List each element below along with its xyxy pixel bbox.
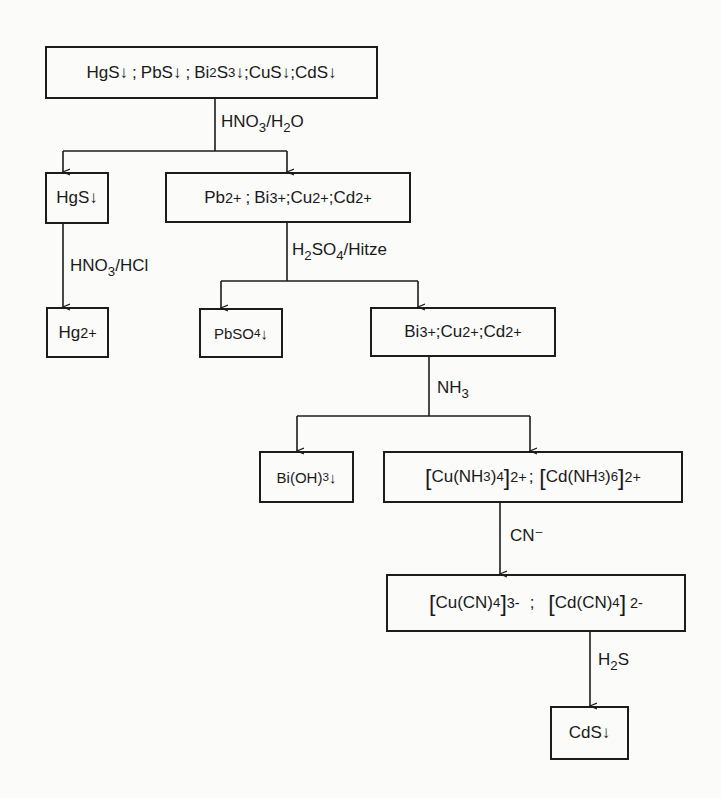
precipitate-arrow-icon: ↓ [120,63,129,83]
formula-text: Bi [404,322,419,342]
formula-text: S [217,63,228,83]
reagent-label-hno3-h2o: HNO3/H2O [221,112,304,132]
formula-text: /H [266,112,283,131]
formula-text: ) [605,467,611,487]
subscript: 3 [462,386,469,401]
formula-text: Cd [484,322,506,342]
precipitate-arrow-icon: ↓ [261,325,269,342]
formula-text: Cd [334,188,356,208]
precipitate-arrow-icon: ↓ [173,63,182,83]
precipitate-arrow-icon: ↓ [329,469,337,486]
precipitate-arrow-icon: ↓ [89,188,98,208]
node-cds-precipitate: CdS↓ [550,706,629,760]
formula-text: /HCl [115,256,148,275]
formula-text: Bi(OH) [277,469,323,486]
formula-text: O [291,112,304,131]
subscript: 2 [283,120,290,135]
formula-text: CN⁻ [510,526,544,545]
precipitate-arrow-icon: ↓ [602,723,611,743]
separator: ; [529,467,534,487]
connector-lines [0,0,721,798]
formula-text: Cu(NH [431,467,483,487]
reagent-label-cyanide: CN⁻ [510,525,544,546]
formula-text: Cd(NH [546,467,598,487]
formula-text: SO [312,240,337,259]
node-hg-ion: Hg2+ [46,307,109,358]
subscript: 4 [336,248,343,263]
node-hgs-precipitate: HgS↓ [45,172,109,224]
subscript: 2 [610,658,617,673]
formula-text: PbSO [214,325,254,342]
reagent-label-h2so4-hitze: H2SO4/Hitze [292,240,387,260]
formula-text: Bi [194,63,209,83]
formula-text: NH [437,378,462,397]
separator: ; [132,63,137,83]
formula-text: Pb [204,188,225,208]
node-cyano-complexes: [Cu(CN)4]3-; [Cd(CN)4]2- [386,574,686,632]
formula-text: H [598,650,610,669]
node-bioh3-precipitate: Bi(OH)3↓ [259,451,354,503]
reagent-label-hno3-hcl: HNO3/HCl [70,256,148,276]
precipitate-arrow-icon: ↓ [328,63,337,83]
formula-text: S [618,650,629,669]
precipitate-arrow-icon: ↓ [235,63,244,83]
formula-text: Bi [254,188,269,208]
formula-text: HgS [56,188,89,208]
reagent-label-h2s: H2S [598,650,629,670]
subscript: 2 [304,248,311,263]
formula-text: HNO [221,112,259,131]
formula-text: HgS [86,63,119,83]
precipitate-arrow-icon: ↓ [282,63,291,83]
formula-text: H [292,240,304,259]
separator: ; [530,593,535,613]
formula-text: Cd(CN) [555,593,613,613]
formula-text: CdS [569,723,602,743]
formula-text: CuS [249,63,282,83]
formula-text: Cu(CN) [435,593,493,613]
formula-text: HNO [70,256,108,275]
formula-text: PbS [141,63,173,83]
node-start-sulfides: HgS↓; PbS↓; Bi2S3↓; CuS↓; CdS↓ [45,46,378,99]
separator: ; [185,63,190,83]
formula-text: Cu [441,322,463,342]
node-cations-bi-cu-cd: Bi3+; Cu2+; Cd2+ [370,307,556,357]
formula-text: CdS [295,63,328,83]
reagent-label-nh3: NH3 [437,378,469,398]
node-pbso4-precipitate: PbSO4↓ [199,308,283,358]
node-cations-pb-bi-cu-cd: Pb2+; Bi3+; Cu2+; Cd2+ [165,172,411,223]
node-ammine-complexes: [Cu(NH3)4]2+; [Cd(NH3)6]2+ [383,451,683,503]
formula-text: Cu [291,188,313,208]
separator: ; [246,188,251,208]
formula-text: Hg [58,323,80,343]
formula-text: /Hitze [344,240,387,259]
